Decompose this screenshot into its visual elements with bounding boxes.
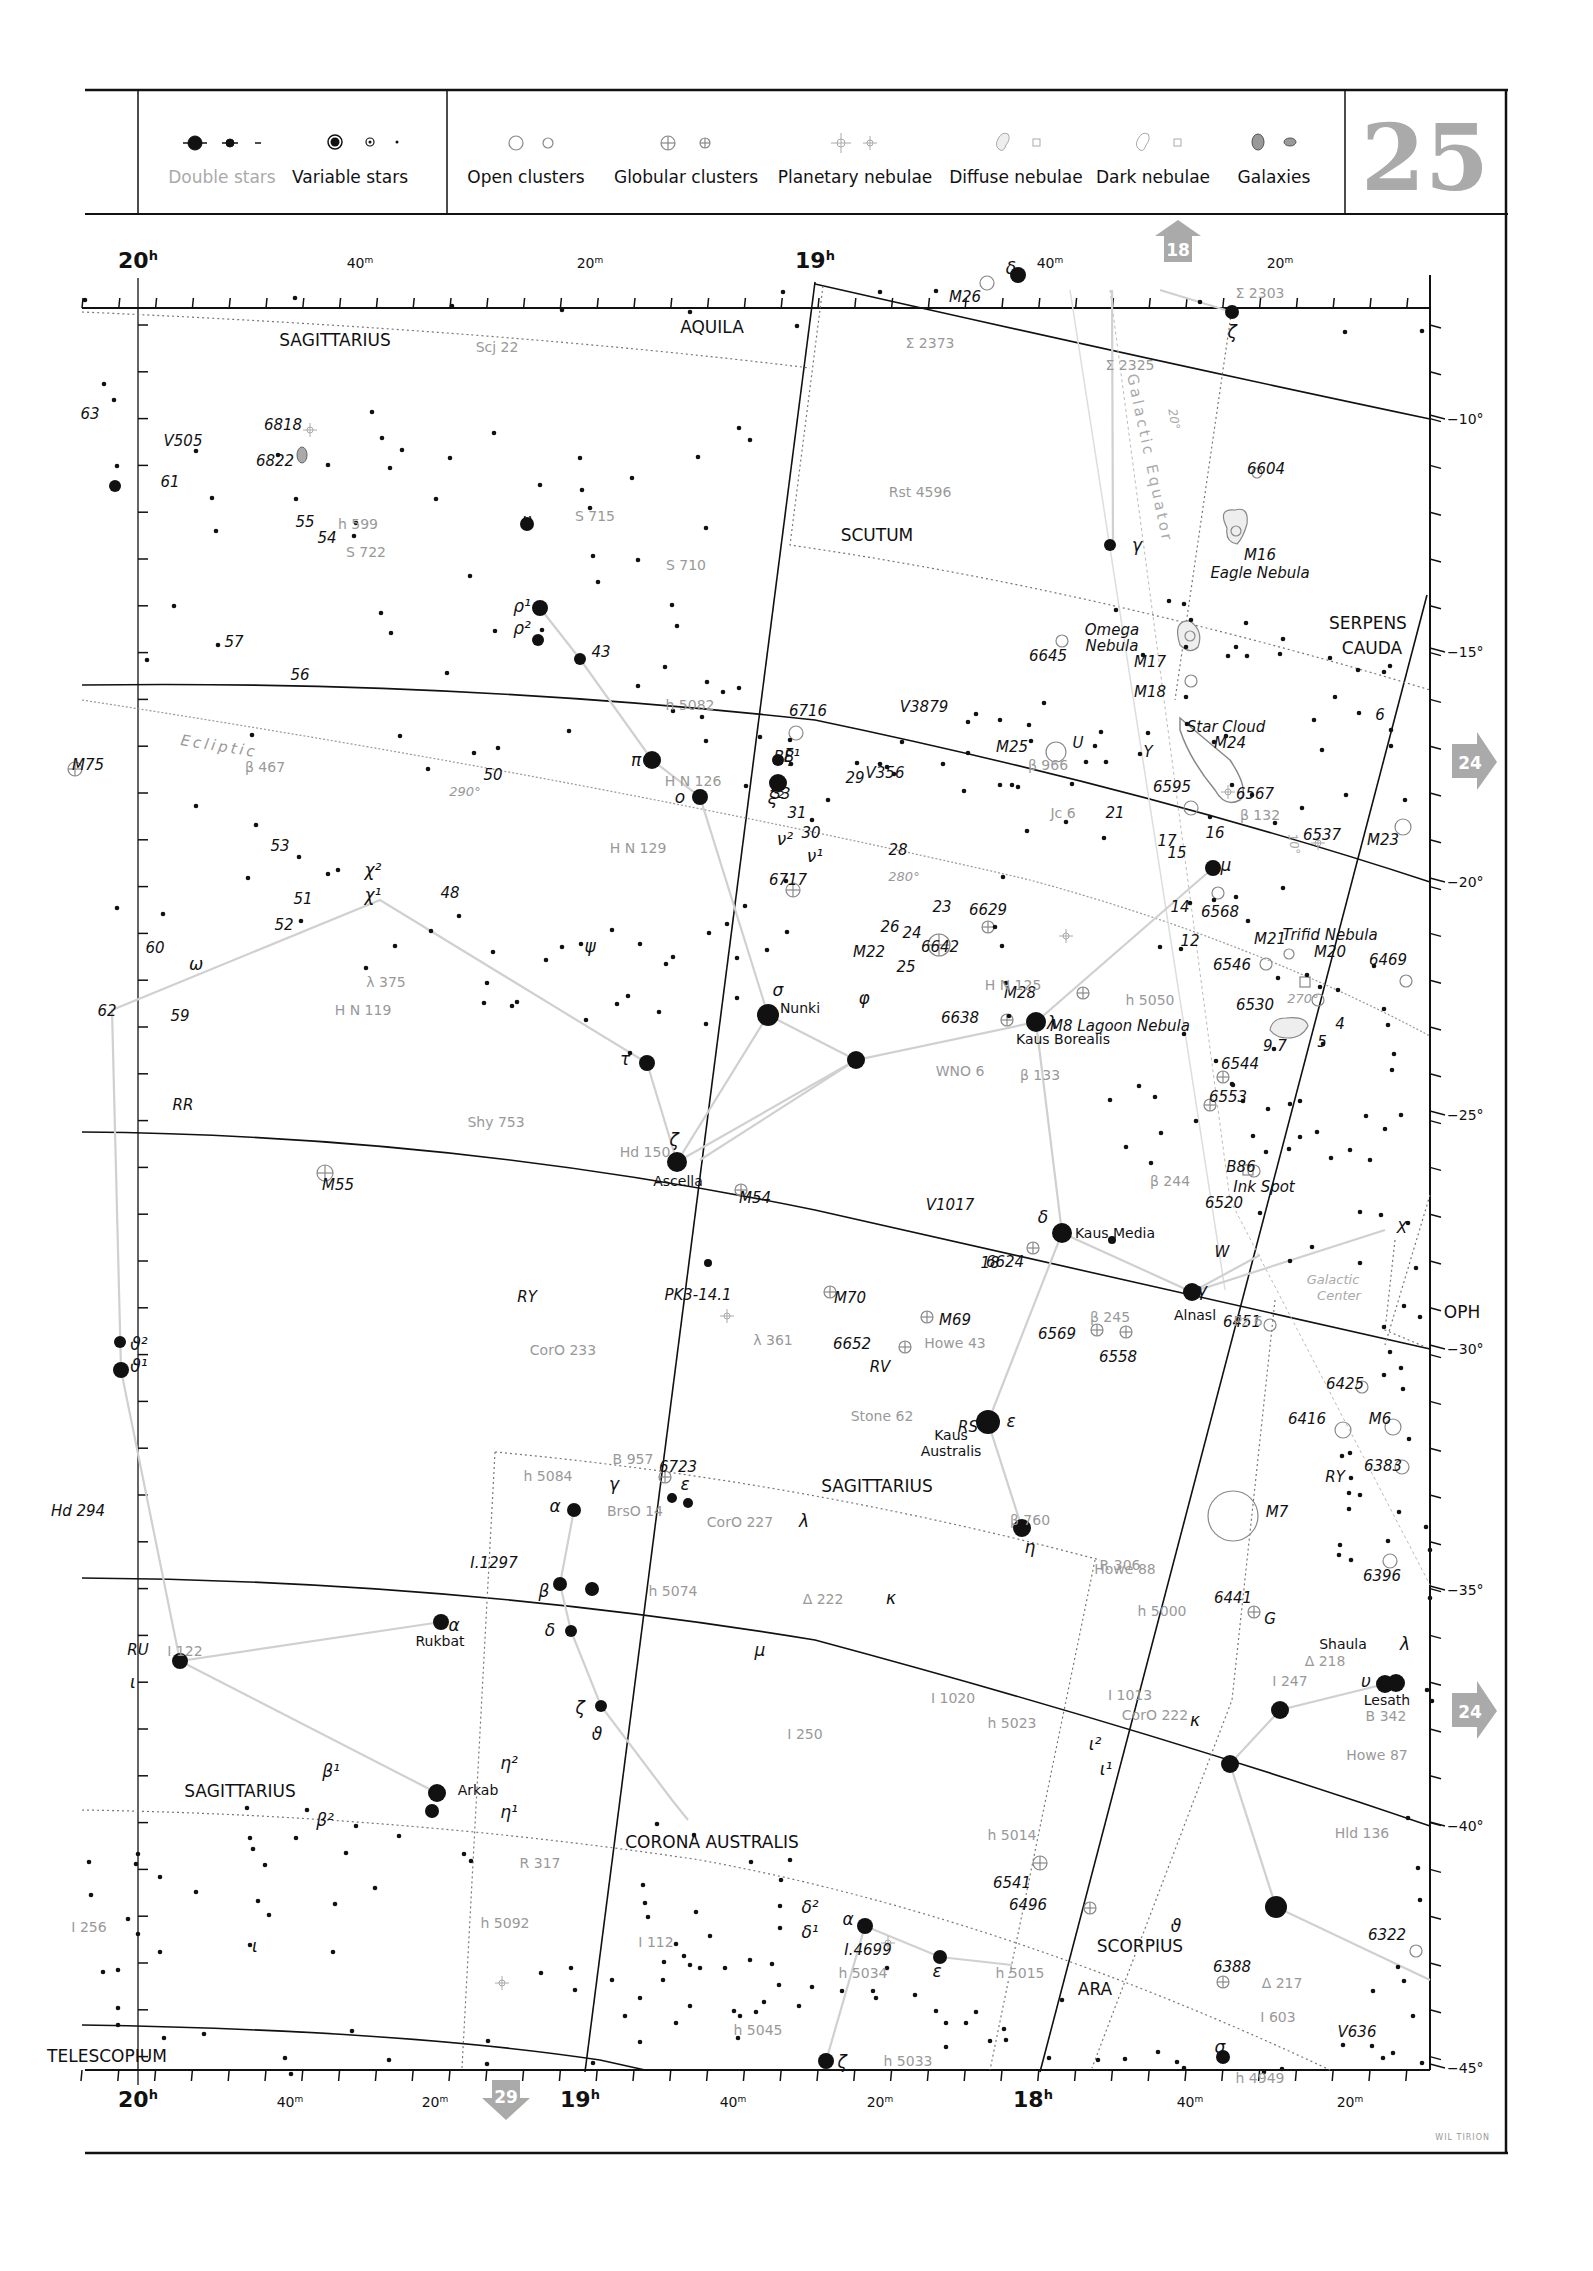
object-label: G — [1264, 1610, 1276, 1628]
object-label: 6595 — [1153, 778, 1191, 796]
object-label: 63 — [80, 405, 99, 423]
greek-letter-label: ζ — [1226, 322, 1238, 342]
object-label: M7 — [1266, 1503, 1289, 1521]
legend-label: Planetary nebulae — [778, 167, 933, 187]
object-label: I.1297 — [470, 1554, 518, 1572]
double-star-label: h 5074 — [649, 1583, 698, 1599]
nav-arrow-down-label[interactable]: 29 — [494, 2087, 518, 2107]
star-name-labels: NunkiAscellaKaus BorealisKaus MediaAlnas… — [415, 1000, 1410, 1798]
lagoon-nebula-icon — [1270, 1018, 1308, 1038]
nav-arrow-up-label[interactable]: 18 — [1166, 240, 1190, 260]
greek-letter-label: ρ² — [513, 618, 531, 638]
ecliptic-tick-label: 270° — [1287, 991, 1318, 1006]
chart-frame — [82, 275, 1430, 2085]
galactic-center-label: Galactic — [1307, 1272, 1360, 1287]
greek-letter-label: ϑ — [592, 1724, 603, 1744]
object-label: 57 — [224, 633, 244, 651]
galactic-tick-label: 10° — [1285, 833, 1302, 856]
constellation-label: AQUILA — [680, 317, 744, 337]
nav-arrow-right-top-label[interactable]: 24 — [1458, 753, 1482, 773]
object-label: 59 — [170, 1007, 189, 1025]
greek-letter-label: κ — [886, 1588, 896, 1608]
nav-arrow-right-bottom-label[interactable]: 24 — [1458, 1702, 1482, 1722]
greek-letter-label: υ — [1361, 1671, 1371, 1691]
dec-label: −20° — [1447, 874, 1484, 890]
double-star-label: Σ 2325 — [1106, 357, 1155, 373]
globular-cluster-icon — [661, 136, 710, 150]
double-star-label: B 957 — [613, 1451, 654, 1467]
double-star-label: β 133 — [1020, 1067, 1060, 1083]
object-label: 24 — [902, 924, 921, 942]
greek-letter-label: β — [538, 1581, 550, 1601]
greek-letter-label: λ — [798, 1511, 809, 1531]
object-label: M20 — [1314, 943, 1346, 961]
double-star-label: h 5000 — [1138, 1603, 1187, 1619]
galactic-tick-label: 20° — [1165, 408, 1182, 431]
ra-label: 20h — [118, 2087, 158, 2112]
object-label: 6383 — [1364, 1457, 1402, 1475]
object-label: 43 — [591, 643, 610, 661]
nav-arrow-up[interactable]: 18 — [1155, 220, 1201, 262]
greek-letter-label: α — [448, 1615, 459, 1635]
nav-arrow-right-bottom[interactable]: 24 — [1452, 1681, 1497, 1739]
ra-grid — [585, 282, 1427, 2072]
ra-label: 19h — [795, 248, 835, 273]
nav-arrow-right-top[interactable]: 24 — [1452, 732, 1497, 790]
constellation-label: CAUDA — [1342, 638, 1403, 658]
constellation-label: TELESCOPIUM — [46, 2046, 167, 2066]
greek-letter-label: η¹ — [500, 1802, 518, 1822]
object-label: 28 — [888, 841, 907, 859]
double-star-label: β 244 — [1150, 1173, 1190, 1189]
greek-letter-label: ω — [189, 954, 203, 974]
greek-letter-label: β¹ — [321, 1761, 340, 1781]
double-star-label: Hd 150 — [620, 1144, 671, 1160]
object-label: 30 — [801, 824, 820, 842]
object-label: V636 — [1338, 2023, 1377, 2041]
greek-letter-label: ι² — [1089, 1734, 1102, 1754]
greek-letter-label: χ¹ — [364, 885, 382, 905]
star-name: Alnasl — [1174, 1307, 1216, 1323]
greek-letter-label: ε — [680, 1474, 689, 1494]
ra-label: 40m — [347, 255, 374, 271]
ra-label: 40m — [1037, 255, 1064, 271]
double-star-label: CorO 233 — [530, 1342, 596, 1358]
object-label: 55 — [295, 513, 314, 531]
object-label: 21 — [1105, 804, 1124, 822]
double-star-label: β 760 — [1010, 1512, 1050, 1528]
object-label: 6604 — [1247, 460, 1285, 478]
double-star-label: h 5023 — [988, 1715, 1037, 1731]
star-name: Nunki — [780, 1000, 820, 1016]
object-label: M75 — [72, 756, 104, 774]
object-label: M16 — [1244, 546, 1276, 564]
object-label: X — [1396, 1219, 1408, 1237]
star-name: Arkab — [458, 1782, 499, 1798]
object-label: 6396 — [1363, 1567, 1401, 1585]
object-label: 6322 — [1368, 1926, 1406, 1944]
greek-letter-label: κ — [1190, 1710, 1200, 1730]
object-label: RY — [517, 1288, 538, 1306]
object-label: M69 — [939, 1311, 971, 1329]
nav-arrow-down[interactable]: 29 — [482, 2080, 530, 2120]
constellation-label: OPH — [1444, 1302, 1480, 1322]
ra-label: 20m — [1337, 2094, 1364, 2110]
double-star-label: λ 375 — [366, 974, 405, 990]
object-label: M54 — [739, 1189, 771, 1207]
open-cluster-icon — [509, 136, 553, 150]
object-label: RU — [127, 1641, 148, 1659]
object-label: 6629 — [969, 901, 1007, 919]
double-star-label: Rst 4596 — [889, 484, 952, 500]
double-star-label: Howe 87 — [1346, 1747, 1407, 1763]
ra-label: 40m — [277, 2094, 304, 2110]
galactic-equator-label: Galactic Equator — [1123, 372, 1176, 544]
double-star-label: β 467 — [245, 759, 285, 775]
greek-letter-label: η — [1025, 1537, 1036, 1557]
object-label: 6818 — [264, 416, 302, 434]
object-label: W — [1215, 1243, 1231, 1261]
legend-label: Globular clusters — [614, 167, 758, 187]
double-star-labels: Σ 2303Σ 2373Scj 22Σ 2325Rst 4596h 599S 7… — [71, 285, 1407, 2086]
double-star-label: h 5045 — [734, 2022, 783, 2038]
object-labels: M26636818V50568226166045554M16Eagle Nebu… — [51, 288, 1408, 2041]
object-label: 14 — [1170, 898, 1189, 916]
object-label: 6568 — [1201, 903, 1239, 921]
object-label: M55 — [322, 1176, 354, 1194]
